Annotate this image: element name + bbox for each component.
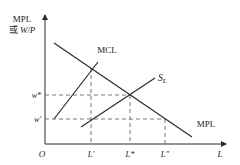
sl-label-sub: L (162, 77, 167, 85)
x-tick-l-double-prime: L'' (160, 149, 170, 159)
y-axis-title-line2: 或 W/P (9, 24, 36, 35)
origin-label: O (39, 149, 46, 159)
mpl-label: MPL (197, 119, 216, 129)
y-tick-w-prime: w' (34, 115, 41, 124)
mcl-label: MCL (97, 45, 117, 55)
x-axis-title: L (216, 149, 222, 159)
y-tick-w-star: w* (32, 91, 41, 100)
y-axis-title-prefix: 或 (9, 24, 20, 35)
mpl-curve (54, 43, 192, 137)
x-tick-l-star: L* (125, 149, 136, 159)
labor-market-diagram: MPL 或 W/P w* w' O L L' L* L'' MCL SL MPL (0, 0, 240, 165)
sl-curve (81, 78, 155, 127)
x-tick-l-prime: L' (87, 149, 95, 159)
y-axis-title-line1: MPL (13, 14, 32, 24)
y-axis-title-var: W/P (20, 25, 36, 35)
sl-label: SL (158, 73, 167, 85)
